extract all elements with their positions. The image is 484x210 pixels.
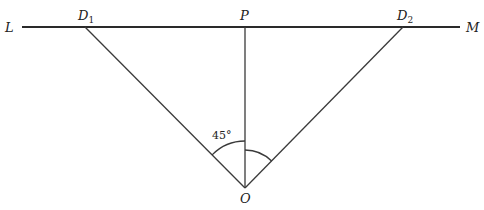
segment-D1-O [85,27,245,188]
label-O: O [240,191,251,206]
label-D2: D2 [396,8,413,25]
angle-arc-left [212,141,245,155]
angle-label-45: 45° [212,129,232,142]
segment-D2-O [245,27,403,188]
label-D1: D1 [77,8,94,25]
label-M: M [465,20,480,35]
geometry-diagram: L M D1 P D2 O 45° [0,0,484,210]
label-L: L [4,20,14,35]
angle-arc-right [245,150,272,161]
label-P: P [239,8,249,23]
